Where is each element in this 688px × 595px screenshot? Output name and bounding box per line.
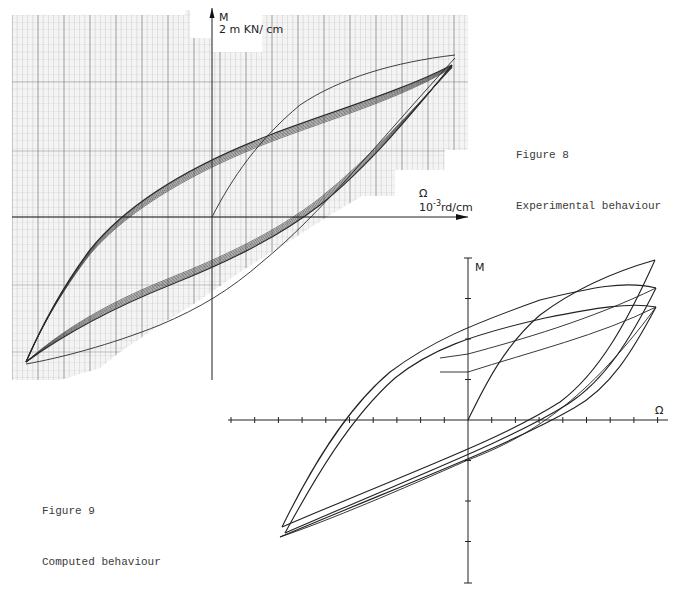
omega-label: Ω (419, 188, 473, 200)
omega-unit: 10-3rd/cm (419, 202, 473, 215)
figure8-m-axis-label: M 2 m KN/ cm (219, 12, 283, 36)
m-unit: 2 m KN/ cm (219, 24, 283, 36)
figure8-omega-axis-label: Ω 10-3rd/cm (419, 188, 473, 215)
figure8-title: Experimental behaviour (516, 198, 661, 215)
figure8-number: Figure 8 (516, 147, 661, 164)
figure9-omega-axis-label: Ω (655, 405, 663, 417)
figure8-caption: Figure 8 Experimental behaviour (516, 113, 661, 232)
figure9-number: Figure 9 (42, 503, 161, 520)
figure9-axes (228, 258, 668, 583)
figure9-title: Computed behaviour (42, 554, 161, 571)
figure9-m-axis-label: M (475, 262, 485, 274)
figure9-caption: Figure 9 Computed behaviour (42, 469, 161, 588)
